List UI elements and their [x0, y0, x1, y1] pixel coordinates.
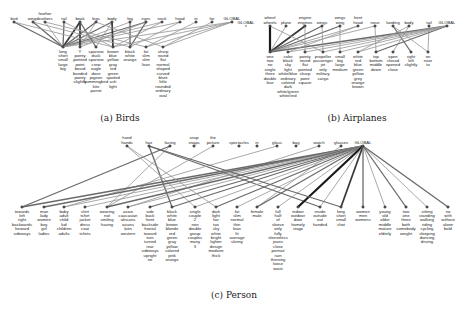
node-label: GLOBAL [439, 20, 456, 25]
bottom-node: rightleftslightly [405, 51, 419, 68]
top-node: GLOBAL [355, 140, 372, 148]
node-marker [79, 21, 82, 24]
node-label: tail [426, 20, 431, 25]
node-marker [63, 21, 66, 24]
edge [195, 146, 363, 207]
bottom-node: singlecouple2nondoublegroupcouplesmany3 [188, 206, 202, 249]
top-node: plane [281, 20, 292, 28]
node-label: engines [298, 20, 313, 25]
node-marker [193, 145, 196, 148]
node-label: big [60, 66, 66, 71]
node-label: ne [148, 257, 153, 262]
top-node: wings [317, 20, 328, 28]
edges [270, 26, 447, 52]
bottom-node: blackwhiteorange [123, 46, 137, 63]
node-label: 3 [194, 244, 197, 249]
node-label: head [175, 16, 185, 21]
node-label: bag [293, 140, 301, 145]
node-label: hair [146, 140, 154, 145]
node-label: bald [444, 226, 453, 231]
edge [44, 146, 363, 207]
bottom-node: pointyroundflatpointedsharppointsquare [298, 51, 312, 85]
node-label: eyes [142, 16, 151, 21]
top-node: hair [146, 140, 154, 148]
node-label: cargo [318, 76, 329, 81]
node-label: wings [317, 20, 328, 25]
node-label: lean [142, 62, 151, 67]
top-node: featherfeathers [37, 11, 52, 23]
top-node: head [175, 16, 185, 24]
node-label: head [353, 20, 363, 25]
bottom-node: sparrowducksparrowcroweagledovepigeonhum… [84, 46, 109, 93]
node-label: legs [92, 16, 100, 21]
node-label: neck [158, 16, 168, 21]
node-marker [129, 21, 132, 24]
node-label: glasses [334, 140, 348, 145]
bottom-node: femalemale [251, 206, 264, 218]
bottom-node: brownblueyellowgrayredgreenspottedashlig… [106, 46, 120, 89]
top-node: spectacles [229, 140, 249, 148]
edge [363, 146, 406, 207]
top-node: wingswing [335, 15, 346, 27]
bottom-node: whiteredbluegreenyellowgreyorangebrown [351, 51, 365, 90]
node-label: handed [313, 222, 328, 227]
node-label: snaps [188, 140, 199, 145]
top-node: in [255, 140, 259, 148]
node-label: ladies [39, 231, 50, 236]
bottom-node: fullhalfofsleeveonlyfullysleevelessjeans… [268, 206, 288, 271]
node-marker [211, 21, 214, 24]
node-marker [245, 25, 247, 27]
node-marker [148, 145, 151, 148]
node-label: landing [386, 20, 400, 25]
node-marker [195, 21, 198, 24]
bottom-node: darklightfairtanshywhitebrightlighterdes… [209, 206, 224, 258]
node-label: plane [281, 20, 292, 25]
bottom-node: topbottommiddledown [370, 51, 383, 72]
node-label: elderly [379, 231, 392, 236]
node-label: parrot [91, 88, 103, 93]
bottom-node: youngoldoldermiddlematureelderly [378, 206, 392, 236]
node-label: wheels [263, 20, 276, 25]
node-marker [13, 21, 16, 24]
graph-panel-0: birdwingsfeatherfeatherstailbeaklegsbody… [11, 11, 242, 123]
node-marker [446, 25, 449, 28]
node-marker [145, 21, 148, 24]
node-label: body [404, 20, 414, 25]
node-label: orange [123, 57, 137, 62]
bottom-node: sidebackfrontbacksidefrontaltowardturntu… [141, 206, 159, 262]
node-label: in [255, 140, 259, 145]
node-marker [111, 21, 114, 24]
node-label: having [101, 222, 114, 227]
node-label: hands [121, 140, 132, 145]
edge [64, 146, 363, 207]
node-marker [408, 25, 411, 28]
node-label: feathers [37, 16, 52, 21]
node-marker [179, 21, 182, 24]
node-label: picture [207, 140, 220, 145]
bottom-node: towardsleftrightbackwardsforwardsideways [12, 206, 32, 236]
bottom-node: babyadultchildkidchildrenadults [57, 206, 72, 236]
top-node: watch [314, 140, 326, 148]
top-node: fronthead [353, 15, 363, 27]
figure-caption: (b) Airplanes [327, 113, 386, 123]
node-label: skinny [231, 239, 244, 244]
node-marker [304, 25, 307, 28]
top-node: leg [127, 16, 133, 24]
node-label: in [194, 16, 198, 21]
top-node: landing [386, 20, 400, 28]
node-label: four [266, 80, 274, 85]
bottom-node: openclosedopenedclose [386, 51, 401, 72]
node-label: stage [293, 226, 304, 231]
node-label: light [109, 84, 118, 89]
node-label: wing [336, 20, 345, 25]
top-node: tail [61, 16, 66, 24]
node-marker [169, 145, 172, 148]
bottom-node: insideoutsideouthanded [313, 206, 328, 227]
node-label: glass [272, 140, 282, 145]
node-label: tail [61, 16, 66, 21]
bottom-node: shirttshirtjacketdresscoattshirts [79, 206, 92, 236]
bottom-node: asiancaucasianafricansasianslatinwestern [119, 206, 139, 236]
top-node: body [107, 16, 117, 24]
node-label: facing [164, 140, 176, 145]
node-label: GLOBAL [238, 20, 255, 25]
